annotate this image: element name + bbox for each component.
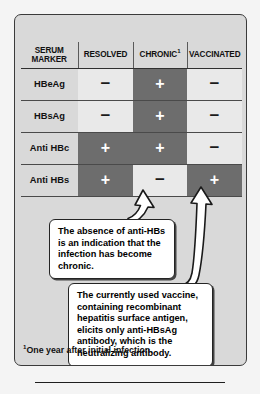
cell-value: + — [101, 140, 110, 156]
column-header-vaccinated: VACCINATED — [187, 42, 242, 69]
cell-hbsag-chronic: + — [133, 101, 187, 133]
footnote-text: One year after initial infection. — [26, 345, 152, 355]
cell-value: + — [210, 172, 219, 188]
cell-hbeag-chronic: + — [133, 69, 187, 101]
column-header-resolved: RESOLVED — [78, 42, 133, 69]
cell-value: + — [155, 76, 164, 92]
serum-marker-line1: SERUM — [35, 46, 64, 55]
table-body: HBeAg − + − HBsAg — [21, 69, 242, 197]
serum-marker-table: SERUM MARKER RESOLVED CHRONIC1 VACCINATE… — [21, 42, 242, 197]
table-row: HBeAg − + − — [21, 69, 242, 101]
cell-value: − — [101, 75, 111, 92]
cell-value: − — [101, 107, 111, 124]
cell-hbsag-resolved: − — [78, 101, 133, 133]
cell-value: − — [210, 107, 220, 124]
bottom-divider-rule — [35, 382, 225, 383]
row-label-hbsag: HBsAg — [21, 101, 78, 133]
footnote: 1One year after initial infection. — [23, 345, 238, 356]
row-label-anti-hbc: Anti HBc — [21, 133, 78, 165]
table-row: Anti HBc + + − — [21, 133, 242, 165]
cell-value: − — [155, 171, 165, 188]
table-header: SERUM MARKER RESOLVED CHRONIC1 VACCINATE… — [21, 42, 242, 69]
cell-anti-hbs-vaccinated: + — [187, 165, 242, 197]
table-header-row: SERUM MARKER RESOLVED CHRONIC1 VACCINATE… — [21, 42, 242, 69]
serum-marker-line2: MARKER — [32, 55, 67, 64]
row-label-hbeag: HBeAg — [21, 69, 78, 101]
table-row: Anti HBs + − + — [21, 165, 242, 197]
cell-anti-hbs-resolved: + — [78, 165, 133, 197]
column-header-serum-marker: SERUM MARKER — [21, 42, 78, 69]
cell-hbsag-vaccinated: − — [187, 101, 242, 133]
table-row: HBsAg − + − — [21, 101, 242, 133]
cell-anti-hbs-chronic: − — [133, 165, 187, 197]
cell-value: − — [210, 139, 220, 156]
serology-figure-panel: SERUM MARKER RESOLVED CHRONIC1 VACCINATE… — [14, 14, 247, 366]
cell-value: + — [101, 172, 110, 188]
column-header-chronic: CHRONIC1 — [133, 42, 187, 69]
chronic-footnote-marker: 1 — [177, 49, 180, 55]
cell-hbeag-resolved: − — [78, 69, 133, 101]
cell-value: + — [155, 108, 164, 124]
callout-text: The absence of anti-HBs is an indication… — [58, 226, 165, 271]
cell-anti-hbc-resolved: + — [78, 133, 133, 165]
cell-value: + — [155, 140, 164, 156]
serum-marker-table-wrapper: SERUM MARKER RESOLVED CHRONIC1 VACCINATE… — [21, 42, 242, 207]
figure-page: SERUM MARKER RESOLVED CHRONIC1 VACCINATE… — [0, 0, 260, 394]
row-label-anti-hbs: Anti HBs — [21, 165, 78, 197]
cell-value: − — [210, 75, 220, 92]
cell-hbeag-vaccinated: − — [187, 69, 242, 101]
callout-anti-hbs-absence: The absence of anti-HBs is an indication… — [49, 219, 175, 279]
cell-anti-hbc-vaccinated: − — [187, 133, 242, 165]
cell-anti-hbc-chronic: + — [133, 133, 187, 165]
